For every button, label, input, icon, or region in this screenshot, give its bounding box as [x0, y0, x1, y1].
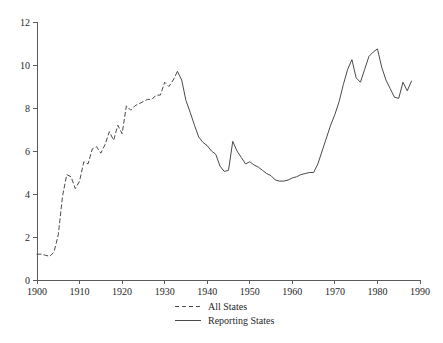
x-tick-label: 1960 — [282, 286, 302, 297]
y-tick-label: 4 — [25, 189, 30, 200]
x-tick-label: 1980 — [367, 286, 387, 297]
legend-label: Reporting States — [208, 315, 274, 326]
y-tick-label: 12 — [20, 17, 30, 28]
x-axis: 1900191019201930194019501960197019801990 — [27, 280, 430, 297]
y-tick-label: 0 — [25, 275, 30, 286]
x-tick-label: 1910 — [70, 286, 90, 297]
x-tick-label: 1920 — [112, 286, 132, 297]
y-tick-label: 2 — [25, 232, 30, 243]
x-tick-label: 1970 — [325, 286, 345, 297]
y-tick-label: 10 — [20, 60, 30, 71]
chart-canvas: 024681012 190019101920193019401950196019… — [0, 0, 443, 343]
y-tick-label: 6 — [25, 146, 30, 157]
x-tick-label: 1990 — [410, 286, 430, 297]
legend-label: All States — [208, 301, 247, 312]
x-tick-label: 1940 — [197, 286, 217, 297]
y-tick-label: 8 — [25, 103, 30, 114]
x-tick-label: 1900 — [27, 286, 47, 297]
series-path — [177, 49, 411, 181]
x-tick-label: 1930 — [155, 286, 175, 297]
divorce-rate-line-chart: 024681012 190019101920193019401950196019… — [0, 0, 443, 343]
series-path — [37, 71, 177, 256]
x-tick-label: 1950 — [240, 286, 260, 297]
series-layer — [37, 49, 411, 256]
chart-legend: All StatesReporting States — [175, 301, 274, 326]
y-axis: 024681012 — [20, 17, 37, 286]
